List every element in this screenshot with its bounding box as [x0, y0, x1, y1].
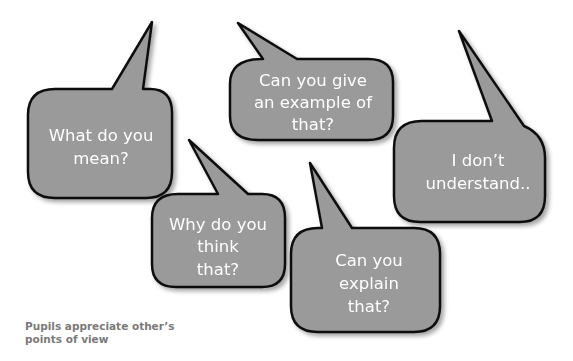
caption: Pupils appreciate other’s points of view: [25, 320, 175, 346]
speech-bubble-dont-understand: I don’t understand..: [394, 31, 545, 222]
caption-line: points of view: [25, 333, 175, 346]
bubble-text: I don’t: [452, 151, 505, 170]
bubble-text: an example of: [254, 93, 373, 112]
bubble-text: think: [197, 237, 239, 256]
speech-bubble-what-do-you-mean: What do you mean?: [28, 22, 172, 198]
speech-bubble-shape: [394, 31, 545, 222]
speech-bubbles-diagram: What do you mean? Can you give an exampl…: [0, 0, 573, 361]
bubble-text: that?: [197, 260, 239, 279]
bubble-text: What do you: [49, 126, 154, 145]
bubble-text: Why do you: [169, 215, 267, 234]
speech-bubble-give-example: Can you give an example of that?: [230, 23, 393, 140]
bubble-text: Can you give: [259, 71, 367, 90]
bubble-text: mean?: [73, 149, 129, 168]
bubble-text: Can you: [335, 251, 403, 270]
bubble-text: explain: [339, 274, 399, 293]
bubble-text: understand..: [426, 174, 531, 193]
bubble-text: that?: [348, 297, 390, 316]
speech-bubble-shape: [28, 22, 172, 198]
caption-line: Pupils appreciate other’s: [25, 320, 175, 333]
bubble-text: that?: [292, 115, 334, 134]
